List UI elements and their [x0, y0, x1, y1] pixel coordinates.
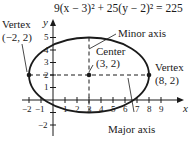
center-point — [87, 73, 92, 78]
y-tick-label: 4 — [44, 46, 49, 55]
x-tick-label: 8 — [147, 105, 152, 114]
center-leader — [89, 65, 93, 72]
y-tick-label: 5 — [44, 33, 49, 42]
vertex-right-point — [147, 73, 152, 78]
center-coords: (3, 2) — [96, 58, 120, 69]
vertex-right-coords: (8, 2) — [155, 75, 179, 86]
vertex-right-title: Vertex — [155, 62, 184, 73]
x-tick-label: 1 — [63, 105, 68, 114]
minor-axis-label: Minor axis — [118, 28, 166, 39]
x-tick-label: 4 — [99, 105, 104, 114]
vertex-left-coords: (−2, 2) — [2, 32, 32, 43]
y-tick-label: −2 — [38, 121, 48, 130]
x-tick-label: 9 — [159, 105, 164, 114]
x-tick-label: 7 — [135, 105, 140, 114]
x-tick-label: −2 — [22, 105, 32, 114]
y-tick-label: 1 — [44, 83, 49, 92]
y-tick-label: 2 — [44, 71, 49, 80]
x-tick-label: 3 — [87, 105, 92, 114]
x-tick-label: 5 — [111, 105, 116, 114]
y-tick-label: 3 — [44, 58, 49, 67]
y-axis-label: y — [43, 17, 48, 28]
x-tick-label: 2 — [75, 105, 80, 114]
major-axis-leader — [128, 78, 134, 112]
major-axis-label: Major axis — [108, 124, 155, 135]
equation-label: 9(x − 3)² + 25(y − 2)² = 225 — [54, 3, 183, 14]
x-axis-label: x — [183, 103, 188, 114]
x-tick-label: 6 — [123, 105, 128, 114]
y-axis-arrow-icon — [50, 19, 56, 26]
vertex-left-title: Vertex — [2, 19, 31, 30]
vertex-left-leader — [22, 44, 27, 72]
center-title: Center — [96, 46, 125, 57]
vertex-left-point — [27, 73, 32, 78]
x-tick-label: −1 — [35, 105, 45, 114]
